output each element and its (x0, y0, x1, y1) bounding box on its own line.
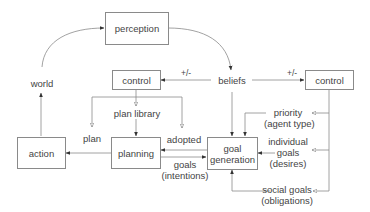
social-goals-label: social goals (obligations) (258, 184, 316, 206)
individual-goals-line3: (desires) (266, 158, 310, 169)
edge-priority-goalgen (245, 113, 266, 136)
planning-box: planning (111, 137, 161, 169)
individual-goals-line2: goals (266, 147, 310, 158)
priority-label: priority (agent type) (264, 107, 312, 129)
individual-goals-line1: individual (266, 136, 310, 147)
control-right-box: control (305, 70, 354, 90)
perception-label: perception (115, 23, 159, 34)
plan-library-label: plan library (111, 108, 163, 119)
goal-generation-line1: goal (224, 143, 242, 154)
goals-intentions-line2: (intentions) (160, 170, 210, 181)
adopted-label: adopted (164, 134, 204, 145)
action-label: action (29, 148, 54, 159)
edge-world-perception (42, 28, 104, 67)
perception-box: perception (105, 12, 169, 45)
control-right-label: control (315, 75, 344, 86)
plus-minus-right-label: +/- (284, 68, 300, 79)
plus-minus-left-label: +/- (178, 68, 194, 79)
edge-control-left-branches (92, 90, 182, 97)
world-label: world (28, 78, 56, 89)
priority-line2: (agent type) (264, 118, 312, 129)
social-goals-line1: social goals (258, 184, 316, 195)
goal-generation-box: goal generation (207, 137, 258, 170)
beliefs-label: beliefs (213, 75, 251, 86)
goals-intentions-label: goals (intentions) (160, 159, 210, 181)
goal-generation-line2: generation (210, 154, 255, 165)
priority-line1: priority (264, 107, 312, 118)
edge-perception-beliefs (168, 28, 231, 70)
plan-label: plan (80, 133, 104, 144)
control-left-box: control (112, 70, 161, 90)
control-left-label: control (122, 75, 151, 86)
goals-intentions-line1: goals (160, 159, 210, 170)
action-box: action (17, 137, 66, 169)
individual-goals-label: individual goals (desires) (266, 136, 310, 169)
planning-label: planning (118, 148, 154, 159)
social-goals-line2: (obligations) (258, 195, 316, 206)
